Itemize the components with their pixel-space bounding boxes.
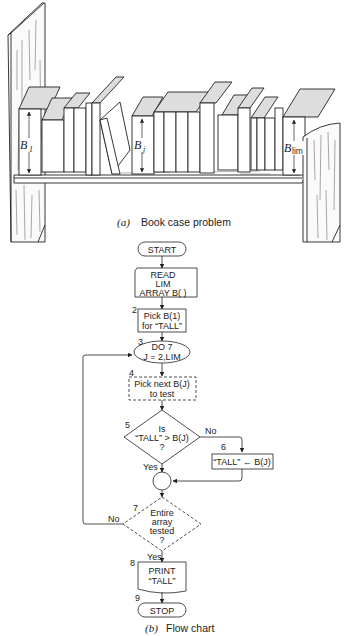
svg-text:Pick B(1): Pick B(1) [144,311,181,321]
svg-text:?: ? [159,442,164,452]
caption-b: (b) Flow chart [145,622,215,635]
svg-text:9: 9 [135,593,140,603]
svg-text:No: No [205,426,217,436]
svg-text:3: 3 [138,337,143,347]
svg-text:2: 2 [132,305,137,315]
svg-text:B: B [20,138,28,152]
svg-text:ARRAY B( ): ARRAY B( ) [139,288,186,298]
books [19,77,335,175]
svg-text:PRINT: PRINT [149,566,177,576]
svg-text:(a): (a) [117,216,130,229]
svg-text:1: 1 [29,145,33,154]
svg-text:START: START [148,245,177,255]
svg-text:4: 4 [129,368,134,378]
svg-text:DO 7: DO 7 [151,342,172,352]
connector-circle [153,472,171,490]
svg-text:5: 5 [125,420,130,430]
svg-text:for “TALL”: for “TALL” [142,321,182,331]
height-label-blim: B lim [284,141,304,156]
svg-text:lim: lim [292,146,303,156]
svg-text:B: B [134,138,142,152]
flowchart [83,242,273,617]
svg-text:STOP: STOP [150,606,174,616]
svg-text:to test: to test [150,389,175,399]
svg-text:No: No [108,514,120,524]
svg-text:Flow chart: Flow chart [166,622,215,634]
svg-text:“TALL”: “TALL” [149,576,176,586]
svg-text:B: B [284,141,292,155]
height-label-b1: B 1 [20,138,37,154]
bookcase-illustration [8,3,340,242]
svg-text:J = 2,LIM: J = 2,LIM [143,352,180,362]
diagram-canvas: B 1 B j B lim (a) Book case problem [0,0,345,636]
svg-text:(b): (b) [145,622,158,635]
svg-text:7: 7 [133,503,138,513]
svg-text:Book case problem: Book case problem [141,216,231,228]
right-upright-board [303,123,340,242]
svg-text:Pick next B(J): Pick next B(J) [134,379,190,389]
svg-text:Yes: Yes [147,552,162,562]
caption-a: (a) Book case problem [117,216,231,229]
svg-text:?: ? [159,535,164,545]
svg-text:8: 8 [130,558,135,568]
svg-text:6: 6 [221,442,226,452]
height-label-bj: B j [133,138,150,154]
svg-text:“TALL” ← B(J): “TALL” ← B(J) [213,457,270,467]
svg-text:Yes: Yes [143,462,158,472]
